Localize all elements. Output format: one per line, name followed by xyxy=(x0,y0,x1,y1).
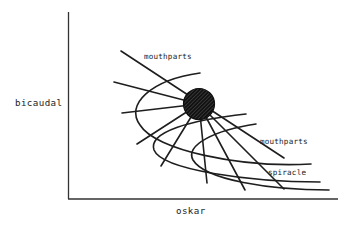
label-mouthparts-top: mouthparts xyxy=(144,52,192,61)
y-axis-label: bicaudal xyxy=(15,97,62,108)
diagram-figure: mouthparts mouthparts spiracle bicaudal … xyxy=(0,0,355,229)
x-axis-label: oskar xyxy=(176,205,206,216)
diagram-canvas: mouthparts mouthparts spiracle bicaudal … xyxy=(0,0,355,229)
hatched-circle-marker xyxy=(184,89,215,120)
label-mouthparts-right: mouthparts xyxy=(260,137,308,146)
label-spiracle: spiracle xyxy=(268,168,306,177)
